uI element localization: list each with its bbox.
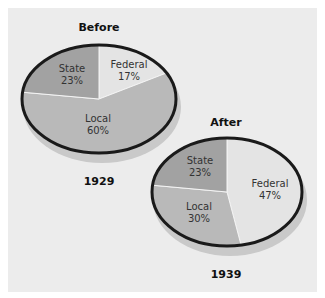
after-federal-label: Federal 47%: [240, 178, 300, 202]
after-state-pct: 23%: [170, 167, 230, 179]
before-year: 1929: [59, 175, 139, 188]
before-federal-label: Federal 17%: [99, 59, 159, 83]
before-local-label: Local 60%: [68, 113, 128, 137]
before-state-label: State 23%: [42, 63, 102, 87]
before-state-name: State: [42, 63, 102, 75]
before-federal-pct: 17%: [99, 71, 159, 83]
before-local-name: Local: [68, 113, 128, 125]
after-year: 1939: [186, 268, 266, 281]
before-title: Before: [59, 21, 139, 34]
after-title: After: [186, 116, 266, 129]
before-local-pct: 60%: [68, 125, 128, 137]
after-federal-pct: 47%: [240, 190, 300, 202]
after-state-name: State: [170, 155, 230, 167]
pie-charts: [0, 0, 325, 298]
after-local-pct: 30%: [169, 213, 229, 225]
after-local-label: Local 30%: [169, 201, 229, 225]
after-state-label: State 23%: [170, 155, 230, 179]
before-state-pct: 23%: [42, 75, 102, 87]
before-federal-name: Federal: [99, 59, 159, 71]
after-local-name: Local: [169, 201, 229, 213]
after-federal-name: Federal: [240, 178, 300, 190]
